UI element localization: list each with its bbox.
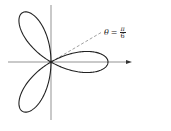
fraction-denominator: 6 [120, 33, 124, 39]
equals-sign: = [111, 28, 118, 37]
theta-label: θ = π 6 [104, 26, 126, 39]
x-axis-arrow-icon [126, 60, 132, 64]
polar-rose-diagram [0, 0, 171, 131]
origin-point [50, 61, 53, 64]
theta-symbol: θ [104, 28, 109, 37]
pi-over-six-fraction: π 6 [120, 26, 126, 39]
